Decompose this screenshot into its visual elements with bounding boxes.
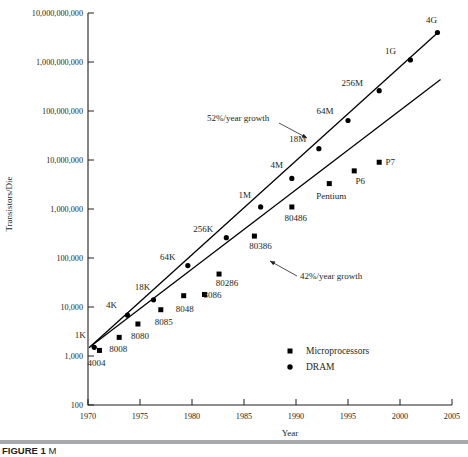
y-axis-tick-label: 1,000 xyxy=(65,352,83,361)
x-axis-tick-label: 1990 xyxy=(288,412,304,421)
plot-lines xyxy=(89,32,441,348)
transistor-scaling-chart: 1001,00010,000100,0001,000,00010,000,000… xyxy=(0,0,468,457)
data-point-microprocessor xyxy=(181,293,186,298)
figure-caption: FIGURE 1 M xyxy=(2,445,468,456)
data-point-dram xyxy=(377,88,382,93)
x-axis-tick-label: 2000 xyxy=(392,412,408,421)
data-point-dram xyxy=(258,204,263,209)
x-axis-tick-label: 1980 xyxy=(184,412,200,421)
y-axis-tick-label: 100,000 xyxy=(56,254,83,263)
data-point-microprocessor xyxy=(352,168,357,173)
data-point-label: 8086 xyxy=(203,290,222,300)
data-point-dram xyxy=(316,146,321,151)
data-point-dram xyxy=(289,176,294,181)
data-point-label: 8085 xyxy=(155,317,174,327)
trend-line-dram xyxy=(89,32,438,348)
data-point-label: 4K xyxy=(106,300,118,310)
figure-container: 1001,00010,000100,0001,000,00010,000,000… xyxy=(0,0,468,457)
x-axis-tick-label: 2005 xyxy=(444,412,460,421)
data-point-label: 4004 xyxy=(87,358,106,368)
data-point-dram xyxy=(125,313,130,318)
data-point-microprocessor xyxy=(217,272,222,277)
data-point-dram xyxy=(408,57,413,62)
data-point-microprocessor xyxy=(97,348,102,353)
x-axis-tick-label: 1995 xyxy=(340,412,356,421)
data-point-microprocessor xyxy=(327,181,332,186)
data-point-label: 80386 xyxy=(249,241,272,251)
data-point-label: 256M xyxy=(341,78,363,88)
legend-label: Microprocessors xyxy=(306,346,370,356)
figure-caption-label: FIGURE 1 xyxy=(2,445,46,456)
data-point-dram xyxy=(151,297,156,302)
data-point-label: P6 xyxy=(355,176,365,186)
data-point-dram xyxy=(345,118,350,123)
data-point-label: 64K xyxy=(160,252,176,262)
data-point-label: P7 xyxy=(385,157,395,167)
data-point-label: 1G xyxy=(385,46,397,56)
legend-label: DRAM xyxy=(306,362,335,372)
data-point-label: 4M xyxy=(271,160,284,170)
y-axis-tick-label: 10,000 xyxy=(60,303,83,312)
x-axis-tick-label: 1985 xyxy=(236,412,252,421)
data-point-dram xyxy=(92,345,97,350)
data-point-label: 8080 xyxy=(131,331,150,341)
data-point-label: 8048 xyxy=(176,304,195,314)
y-axis-tick-label: 10,000,000,000 xyxy=(32,9,83,18)
x-axis-tick-label: 1970 xyxy=(80,412,96,421)
axis-titles: YearTransistors/Die xyxy=(4,176,298,438)
y-axis-tick-label: 100,000,000 xyxy=(42,107,83,116)
legend-marker-dram xyxy=(287,364,292,369)
data-point-dram xyxy=(224,235,229,240)
data-point-label: 64M xyxy=(316,106,333,116)
data-point-microprocessor xyxy=(289,204,294,209)
data-point-microprocessor xyxy=(252,234,257,239)
data-point-label: 256K xyxy=(193,224,214,234)
data-point-microprocessor xyxy=(158,307,163,312)
data-point-label: 4G xyxy=(426,15,438,25)
data-point-label: 18K xyxy=(135,282,151,292)
y-axis-tick-label: 10,000,000 xyxy=(46,156,83,165)
figure-caption-text: M xyxy=(48,445,56,456)
y-axis-title: Transistors/Die xyxy=(4,176,14,231)
growth-rate-annotation: 42%/year growth xyxy=(300,271,363,281)
data-point-microprocessor xyxy=(377,160,382,165)
data-point-label: 1K xyxy=(75,330,87,340)
caption-rule xyxy=(0,440,468,444)
chart-legend: MicroprocessorsDRAM xyxy=(287,346,369,372)
data-point-dram xyxy=(435,30,440,35)
data-point-label: 1M xyxy=(238,190,251,200)
x-axis-tick-label: 1975 xyxy=(132,412,148,421)
data-point-label: 80286 xyxy=(216,278,239,288)
legend-marker-microprocessors xyxy=(288,349,293,354)
y-axis-tick-label: 1,000,000 xyxy=(50,205,83,214)
y-axis-tick-label: 100 xyxy=(71,401,83,410)
data-point-label: Pentium xyxy=(316,191,346,201)
data-point-microprocessor xyxy=(117,335,122,340)
growth-rate-annotation: 52%/year growth xyxy=(207,113,270,123)
data-point-label: 8008 xyxy=(109,344,128,354)
data-point-label: 80486 xyxy=(285,213,308,223)
x-axis-title: Year xyxy=(282,428,299,438)
y-axis-tick-label: 1,000,000,000 xyxy=(36,58,83,67)
data-point-microprocessor xyxy=(135,321,140,326)
data-point-dram xyxy=(185,263,190,268)
